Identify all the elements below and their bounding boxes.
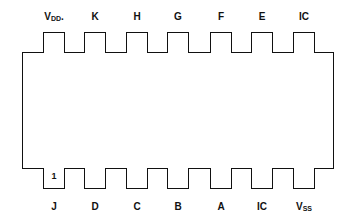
pin-top-2	[84, 32, 106, 53]
pin-label-f: F	[201, 11, 241, 22]
pin-top-6	[251, 32, 273, 53]
pin-bottom-4	[167, 168, 189, 189]
pin-top-1	[43, 32, 65, 53]
pin-top-3	[126, 32, 148, 53]
pin-bottom-3	[126, 168, 148, 189]
ic-pinout-diagram: VDD. K H G F E IC 1 J D C B A IC VSS	[0, 0, 354, 222]
pin-bottom-1: 1	[43, 168, 65, 189]
pin-top-5	[210, 32, 232, 53]
pin-label-d: D	[75, 201, 115, 212]
pin-label-ic-bottom: IC	[242, 201, 282, 212]
pin-bottom-6	[251, 168, 273, 189]
pin-label-j: J	[34, 201, 74, 212]
pin-label-a: A	[201, 201, 241, 212]
pin-label-b: B	[158, 201, 198, 212]
pin-label-e: E	[242, 11, 282, 22]
pin-bottom-7	[293, 168, 315, 189]
pin-1-marker: 1	[44, 171, 64, 181]
pin-top-4	[167, 32, 189, 53]
pin-bottom-5	[210, 168, 232, 189]
pin-label-c: C	[117, 201, 157, 212]
pin-bottom-2	[84, 168, 106, 189]
pin-label-g: G	[158, 11, 198, 22]
pin-label-h: H	[117, 11, 157, 22]
pin-label-vss: VSS	[284, 201, 324, 212]
pin-label-ic-top: IC	[284, 11, 324, 22]
pin-label-vdd: VDD.	[34, 11, 74, 22]
chip-body	[22, 52, 334, 169]
pin-top-7	[293, 32, 315, 53]
pin-label-k: K	[75, 11, 115, 22]
